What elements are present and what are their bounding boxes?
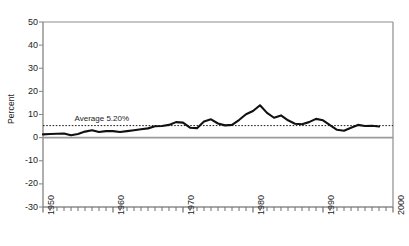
- x-tick-label: 1960: [117, 195, 126, 215]
- x-tick-label: 1970: [187, 195, 196, 215]
- x-tick-label: 1980: [257, 195, 266, 215]
- average-annotation-label: Average 5.20%: [75, 115, 130, 123]
- x-axis-ticks: [43, 207, 393, 213]
- chart-plot-area: [0, 0, 409, 246]
- x-tick-label: 1950: [47, 195, 56, 215]
- chart-container: Percent 50403020100-10-20-30 19501960197…: [0, 0, 409, 246]
- x-tick-label: 2000: [397, 195, 406, 215]
- x-tick-label: 1990: [327, 195, 336, 215]
